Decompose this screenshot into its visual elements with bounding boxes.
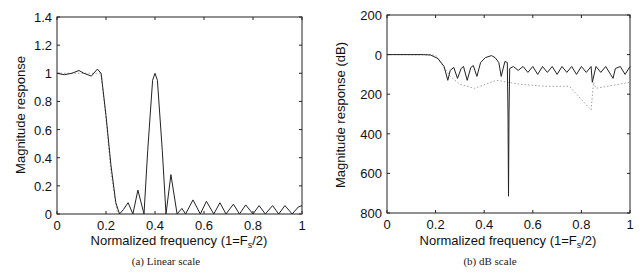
x-tick-label: 0 — [383, 217, 390, 232]
caption-b: (b) dB scale — [463, 255, 516, 268]
y-tick-labels-a: 00.20.40.60.811.21.4 — [34, 10, 52, 222]
x-tick-label: 0 — [53, 218, 60, 233]
x-tick-label: 0.2 — [97, 218, 115, 233]
x-tick-label: 0.8 — [572, 217, 590, 232]
y-tick-label: 200 — [360, 8, 382, 23]
y-axis-label-b: Magnitude response (dB) — [333, 42, 348, 188]
x-tick-label: 0.2 — [427, 217, 445, 232]
x-tick-label: 1 — [298, 218, 305, 233]
x-tick-label: 0.4 — [475, 217, 493, 232]
y-tick-label: 1.2 — [34, 38, 52, 53]
x-tick-label: 0.6 — [524, 217, 542, 232]
axis-ticks-a — [57, 17, 302, 214]
y-tick-label: 600 — [360, 166, 382, 181]
y-tick-label: 0 — [45, 207, 52, 222]
caption-a: (a) Linear scale — [132, 255, 201, 268]
x-tick-labels-a: 00.20.40.60.81 — [53, 218, 305, 233]
series-a — [57, 69, 302, 214]
x-axis-label-b: Normalized frequency (1=Fs/2) — [420, 233, 597, 250]
panel-b-db-scale: 00.20.40.60.81 2000200400600800 Normaliz… — [333, 8, 634, 268]
y-tick-label: 1.4 — [34, 10, 52, 25]
y-tick-label: 0.6 — [34, 123, 52, 138]
y-tick-labels-b: 2000200400600800 — [360, 8, 382, 221]
y-tick-label: 0.8 — [34, 94, 52, 109]
x-tick-label: 1 — [626, 217, 633, 232]
x-tick-label: 0.4 — [146, 218, 164, 233]
x-axis-label-a: Normalized frequency (1=Fs/2) — [91, 233, 268, 250]
x-tick-label: 0.6 — [195, 218, 213, 233]
response-curve — [387, 55, 630, 197]
y-tick-label: 0.2 — [34, 179, 52, 194]
y-tick-label: 1 — [45, 66, 52, 81]
reference-curve — [57, 73, 302, 214]
series-b — [387, 55, 630, 197]
y-tick-label: 200 — [360, 87, 382, 102]
y-tick-label: 400 — [360, 127, 382, 142]
panel-a-linear-scale: 00.20.40.60.81 00.20.40.60.811.21.4 Norm… — [13, 10, 306, 268]
plot-frame-a — [57, 17, 302, 214]
y-axis-label-a: Magnitude response — [13, 56, 28, 174]
y-tick-label: 0.4 — [34, 151, 52, 166]
y-tick-label: 800 — [360, 206, 382, 221]
reference-curve — [387, 55, 630, 110]
y-tick-label: 0 — [375, 48, 382, 63]
x-tick-label: 0.8 — [244, 218, 262, 233]
x-tick-labels-b: 00.20.40.60.81 — [383, 217, 633, 232]
figure: 00.20.40.60.81 00.20.40.60.811.21.4 Norm… — [0, 0, 640, 278]
response-curve — [57, 69, 302, 214]
